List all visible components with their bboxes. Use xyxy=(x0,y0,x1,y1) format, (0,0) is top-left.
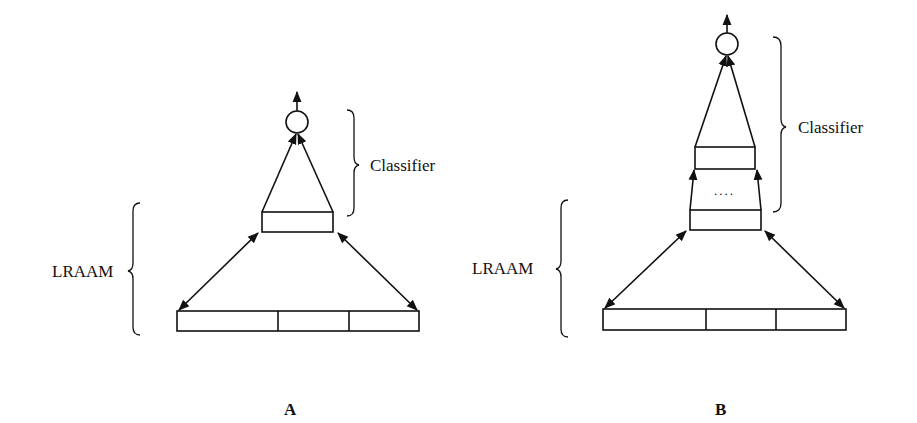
lraam-label: LRAAM xyxy=(52,262,113,281)
classifier-label: Classifier xyxy=(370,156,435,175)
architecture-diagram: Classifier LRAAM A .... Classifier LRAAM… xyxy=(0,0,917,423)
panel-label-a: A xyxy=(284,400,297,419)
panel-b xyxy=(556,15,846,337)
panel-a xyxy=(128,92,419,335)
panel-label-b: B xyxy=(715,400,726,419)
classifier-edge-left xyxy=(262,134,296,212)
ellipsis-dots: .... xyxy=(714,183,735,198)
input-row xyxy=(177,311,419,331)
lraam-arrow-right xyxy=(338,233,417,310)
classifier-edge-right xyxy=(728,56,755,147)
hidden-layer-box xyxy=(262,212,333,232)
classifier-edge-right xyxy=(298,134,333,212)
lraam-arrow-left xyxy=(179,233,258,310)
hidden-layer-top-box xyxy=(695,147,755,169)
lraam-arrow-right xyxy=(765,231,844,308)
stack-edge-left xyxy=(690,170,694,210)
input-row xyxy=(603,309,846,330)
classifier-label: Classifier xyxy=(798,118,863,137)
classifier-brace xyxy=(347,110,359,216)
lraam-brace xyxy=(556,200,568,337)
stack-edge-right xyxy=(757,170,761,210)
output-neuron xyxy=(286,111,308,133)
classifier-brace xyxy=(773,37,786,212)
lraam-arrow-left xyxy=(605,231,686,308)
classifier-edge-left xyxy=(695,56,726,147)
output-neuron xyxy=(716,33,738,55)
lraam-label: LRAAM xyxy=(472,259,533,278)
lraam-brace xyxy=(128,203,140,335)
hidden-layer-bottom-box xyxy=(690,210,761,230)
